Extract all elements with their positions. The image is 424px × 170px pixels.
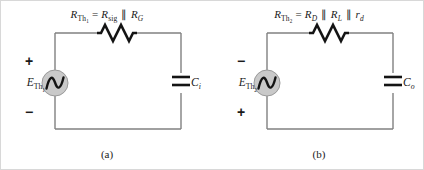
source-label-a: ETh1 — [9, 77, 45, 93]
source-label-b: ETh2 — [221, 77, 257, 93]
source-polarity-top-a: + — [21, 53, 37, 69]
ac-source-symbol-b — [254, 70, 280, 96]
capacitor-label-a: Ci — [191, 77, 201, 91]
resistor-label-a: RTh1 = Rsig ∥ RG — [71, 9, 144, 25]
circuit-figure: RTh1 = Rsig ∥ RG + − ETh1 Ci (a) — [0, 0, 424, 170]
capacitor-symbol-a — [172, 77, 190, 85]
ac-source-symbol-a — [42, 70, 68, 96]
resistor-symbol-a — [97, 25, 137, 41]
source-polarity-bottom-a: − — [21, 104, 37, 120]
source-polarity-bottom-b: + — [233, 104, 249, 120]
circuit-a: RTh1 = Rsig ∥ RG + − ETh1 Ci (a) — [1, 1, 213, 170]
caption-b: (b) — [313, 148, 326, 160]
circuit-b: RTh2 = RD ∥ RL ∥ rd − + ETh2 Co (b) — [213, 1, 424, 170]
resistor-label-b: RTh2 = RD ∥ RL ∥ rd — [274, 9, 364, 25]
caption-a: (a) — [101, 148, 113, 160]
resistor-symbol-b — [309, 25, 349, 41]
capacitor-label-b: Co — [403, 77, 415, 91]
wire-loop-a — [55, 33, 181, 129]
wire-loop-b — [267, 33, 393, 129]
source-polarity-top-b: − — [233, 53, 249, 69]
capacitor-symbol-b — [384, 77, 402, 85]
